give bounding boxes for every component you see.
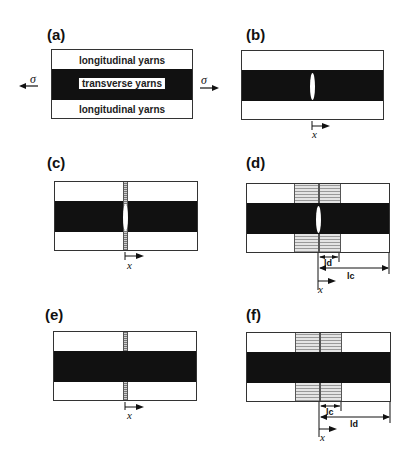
dim-ld-label-f: ld [350,419,358,429]
dim-lc-label-f: lc [326,407,334,417]
axis-x-label-f: x [320,431,325,443]
panel-f-dimensions [0,0,410,454]
